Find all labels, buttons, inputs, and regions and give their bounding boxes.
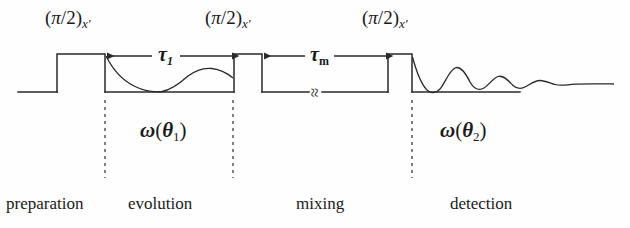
pulse-label-3: (π/2)x′ [362,8,408,30]
stage-label-preparation: preparation [6,195,83,212]
taum-subscript: m [319,54,329,68]
pulse-3-pi: π [368,7,378,28]
omega-1-close-paren: ) [180,118,187,142]
stage-label-mixing: mixing [296,195,344,212]
omega-theta-2-label: ω(θ2) [440,120,487,143]
pulse-label-2: (π/2)x′ [205,8,251,30]
pulse-3-phase: x′ [399,16,408,31]
stage-label-detection: detection [450,195,512,212]
tau1-label: τ1 [158,44,173,67]
timeline-break-icon: ≈ [306,88,323,97]
pulse-1-pi: π [51,7,61,28]
pulse-block-2 [234,54,262,92]
tau1-symbol: τ [158,43,167,65]
tau1-subscript: 1 [167,54,173,68]
pulse-2-pi: π [211,7,221,28]
pulse-2-phase: x′ [242,16,251,31]
omega-1-symbol: ω [140,118,155,142]
omega-theta-1-label: ω(θ1) [140,120,187,143]
pulse-2-two: 2 [226,7,236,28]
omega-1-theta: θ [162,118,173,142]
sequence-trace [18,54,520,92]
nmr-pulse-sequence-figure: (π/2)x′ (π/2)x′ (π/2)x′ τ1 τm ≈ ω(θ1) ω(… [0,0,630,228]
stage-label-evolution: evolution [128,195,192,212]
fid-decay-curve [413,57,615,93]
taum-label: τm [310,44,329,67]
pulse-3-two: 2 [383,7,393,28]
omega-2-theta: θ [462,118,473,142]
pulse-block-1 [57,54,105,92]
pulse-label-1: (π/2)x′ [45,8,91,30]
taum-symbol: τ [310,43,319,65]
omega-2-close-paren: ) [480,118,487,142]
pulse-1-phase: x′ [82,16,91,31]
pulse-block-3 [388,54,412,92]
pulse-1-two: 2 [66,7,76,28]
omega-2-symbol: ω [440,118,455,142]
